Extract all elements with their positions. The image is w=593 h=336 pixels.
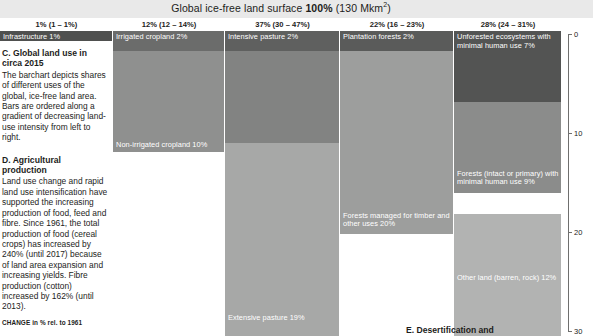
panel-gap [2,143,108,155]
bar-label-managed-forests: Forests managed for timber and other use… [343,212,451,229]
value-axis: 0 10 20 30 [562,31,593,336]
block-c-body: The barchart depicts shares of different… [2,70,108,143]
bar-managed-forests[interactable]: Forests managed for timber and other use… [340,51,454,234]
axis-tick-label-30: 30 [574,327,582,336]
block-d-heading: D. Agricultural production [2,155,108,176]
block-c-heading: C. Global land use in circa 2015 [2,48,108,69]
chart-title-suffix: (130 Mkm [333,2,384,14]
caption-e: E. Desertification and [406,325,494,335]
bar-label-irrigated-cropland: Irrigated cropland 2% [116,33,222,42]
bar-label-infrastructure: Infrastructure 1% [3,33,110,41]
bar-label-extensive-pasture: Extensive pasture 19% [228,314,337,323]
chart-title-end: ) [387,2,391,14]
bar-irrigated-cropland[interactable]: Irrigated cropland 2% [113,31,225,51]
bar-infrastructure[interactable]: Infrastructure 1% [0,31,113,41]
block-d-body: Land use change and rapid land use inten… [2,176,108,311]
group-header-2: 12% (12 – 14%) [113,19,225,31]
bar-label-plantation-forests: Plantation forests 2% [343,33,451,42]
land-use-figure: Global ice-free land surface 100% (130 M… [0,0,593,336]
bar-other-land[interactable]: Other land (barren, rock) 12% [454,214,562,336]
bar-label-non-irrigated-cropland: Non-irrigated cropland 10% [116,141,222,150]
bar-label-intensive-pasture: Intensive pasture 2% [228,33,337,42]
bar-non-irrigated-cropland[interactable]: Non-irrigated cropland 10% [113,51,225,152]
axis-spine [568,34,569,331]
bar-extensive-pasture[interactable]: Extensive pasture 19% [225,143,340,336]
axis-tick-label-0: 0 [574,30,578,39]
bar-plantation-forests[interactable]: Plantation forests 2% [340,31,454,51]
bar-label-unforested-ecosystems: Unforested ecosystems with minimal human… [457,33,559,50]
axis-tick-0 [568,34,572,35]
chart-title-prefix: Global ice-free land surface [171,2,305,14]
axis-tick-30 [568,331,572,332]
side-text-panel: C. Global land use in circa 2015 The bar… [0,44,113,330]
axis-tick-10 [568,133,572,134]
axis-tick-label-10: 10 [574,129,582,138]
group-header-5: 28% (24 – 31%) [454,19,562,31]
axis-tick-label-20: 20 [574,228,582,237]
bar-label-intact-forests: Forests (intact or primary) with minimal… [457,170,559,187]
bar-intensive-pasture[interactable]: Intensive pasture 2% [225,31,340,51]
axis-tick-20 [568,232,572,233]
bar-label-other-land: Other land (barren, rock) 12% [457,274,559,283]
chart-title-pct: 100% [305,2,332,14]
chart-title: Global ice-free land surface 100% (130 M… [0,1,562,14]
bar-intact-forests[interactable]: Forests (intact or primary) with minimal… [454,102,562,193]
change-note: CHANGE in % rel. to 1961 [2,319,108,326]
bar-unforested-ecosystems[interactable]: Unforested ecosystems with minimal human… [454,31,562,102]
group-header-3: 37% (30 – 47%) [225,19,340,31]
group-header-1: 1% (1 – 1%) [0,19,113,31]
group-header-4: 22% (16 – 23%) [340,19,454,31]
